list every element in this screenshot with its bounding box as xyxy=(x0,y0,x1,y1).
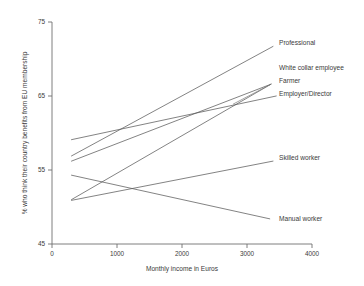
series-label-skilled-worker: Skilled worker xyxy=(279,154,321,161)
series-line-manual-worker xyxy=(72,175,270,219)
series-label-employer-director: Employer/Director xyxy=(279,90,333,98)
y-tick-label-75: 75 xyxy=(38,18,46,25)
y-tick-label-65: 65 xyxy=(38,92,46,99)
series-line-professional xyxy=(72,46,274,156)
chart-figure: 75 65 55 45 % who think their country be… xyxy=(0,0,364,286)
x-tick-label-4000: 4000 xyxy=(305,250,320,257)
y-axis-title: % who think their country benefits from … xyxy=(21,51,29,214)
series-line-white-collar-employee xyxy=(72,84,272,161)
y-tick-label-55: 55 xyxy=(38,166,46,173)
line-chart-canvas: 75 65 55 45 % who think their country be… xyxy=(0,0,364,286)
series-line-employer-director xyxy=(72,96,277,140)
series-label-professional: Professional xyxy=(279,39,316,46)
series-label-white-collar-employee: White collar employee xyxy=(279,64,344,72)
x-axis-title: Monthly income in Euros xyxy=(146,265,219,273)
x-tick-label-3000: 3000 xyxy=(240,250,255,257)
y-axis: 75 65 55 45 % who think their country be… xyxy=(21,18,52,247)
series-lines xyxy=(72,46,277,218)
x-tick-label-0: 0 xyxy=(50,250,54,257)
series-label-manual-worker: Manual worker xyxy=(279,215,323,222)
series-labels: Professional White collar employee Farme… xyxy=(279,39,344,222)
series-label-farmer: Farmer xyxy=(279,77,301,84)
x-tick-label-1000: 1000 xyxy=(110,250,125,257)
x-axis: 0 1000 2000 3000 4000 Monthly income in … xyxy=(50,244,319,273)
y-tick-label-45: 45 xyxy=(38,240,46,247)
x-tick-label-2000: 2000 xyxy=(175,250,190,257)
series-line-skilled-worker xyxy=(72,161,274,200)
